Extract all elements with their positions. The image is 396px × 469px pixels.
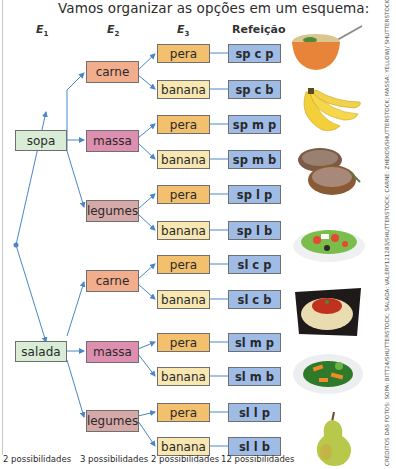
- meal-result: sl c b: [228, 290, 281, 309]
- node-e3-banana: banana: [157, 150, 210, 169]
- soup-bowl-photo: [290, 22, 365, 74]
- node-e3-pera: pera: [157, 115, 210, 134]
- node-e3-banana: banana: [157, 290, 210, 309]
- pasta-plate-photo: [291, 282, 365, 340]
- node-e3-banana: banana: [157, 80, 210, 99]
- count-e2: 3 possibilidades: [80, 454, 148, 464]
- node-e3-pera: pera: [157, 185, 210, 204]
- meal-result: sp m b: [228, 150, 281, 169]
- meal-result: sp l p: [228, 185, 281, 204]
- vegetables-plate-photo: [291, 350, 365, 398]
- root-node-dot: [14, 243, 19, 248]
- node-e3-banana: banana: [157, 367, 210, 386]
- meal-result: sl m p: [228, 333, 281, 352]
- meal-result: sl l p: [228, 403, 281, 422]
- meal-result: sp c p: [228, 44, 281, 63]
- node-e2-massa: massa: [86, 130, 139, 152]
- pear-photo: [312, 412, 354, 468]
- meal-result: sl c p: [228, 255, 281, 274]
- grilled-meat-photo: [296, 144, 364, 200]
- photo-credits: CRÉDITOS DAS FOTOS: SOPA: BITT24/SHUTTER…: [384, 0, 391, 466]
- bananas-photo: [296, 86, 364, 136]
- node-e2-carne: carne: [86, 270, 139, 292]
- meal-result: sp c b: [228, 80, 281, 99]
- count-meals: 12 possibilidades: [221, 454, 294, 464]
- node-e3-pera: pera: [157, 403, 210, 422]
- node-e3-pera: pera: [157, 333, 210, 352]
- meal-result: sp m p: [228, 115, 281, 134]
- node-e2-massa: massa: [86, 341, 139, 363]
- node-e2-legumes: legumes: [86, 410, 139, 432]
- node-e1-sopa: sopa: [15, 130, 67, 151]
- node-e3-pera: pera: [157, 44, 210, 63]
- meal-result: sp l b: [228, 221, 281, 240]
- count-e1: 2 possibilidades: [3, 454, 71, 464]
- node-e3-pera: pera: [157, 255, 210, 274]
- salad-plate-photo: [291, 220, 367, 264]
- count-e3: 2 possibilidades: [151, 454, 219, 464]
- node-e1-salada: salada: [15, 341, 67, 362]
- node-e2-legumes: legumes: [86, 200, 139, 222]
- node-e3-banana: banana: [157, 221, 210, 240]
- node-e2-carne: carne: [86, 61, 139, 83]
- meal-result: sl m b: [228, 367, 281, 386]
